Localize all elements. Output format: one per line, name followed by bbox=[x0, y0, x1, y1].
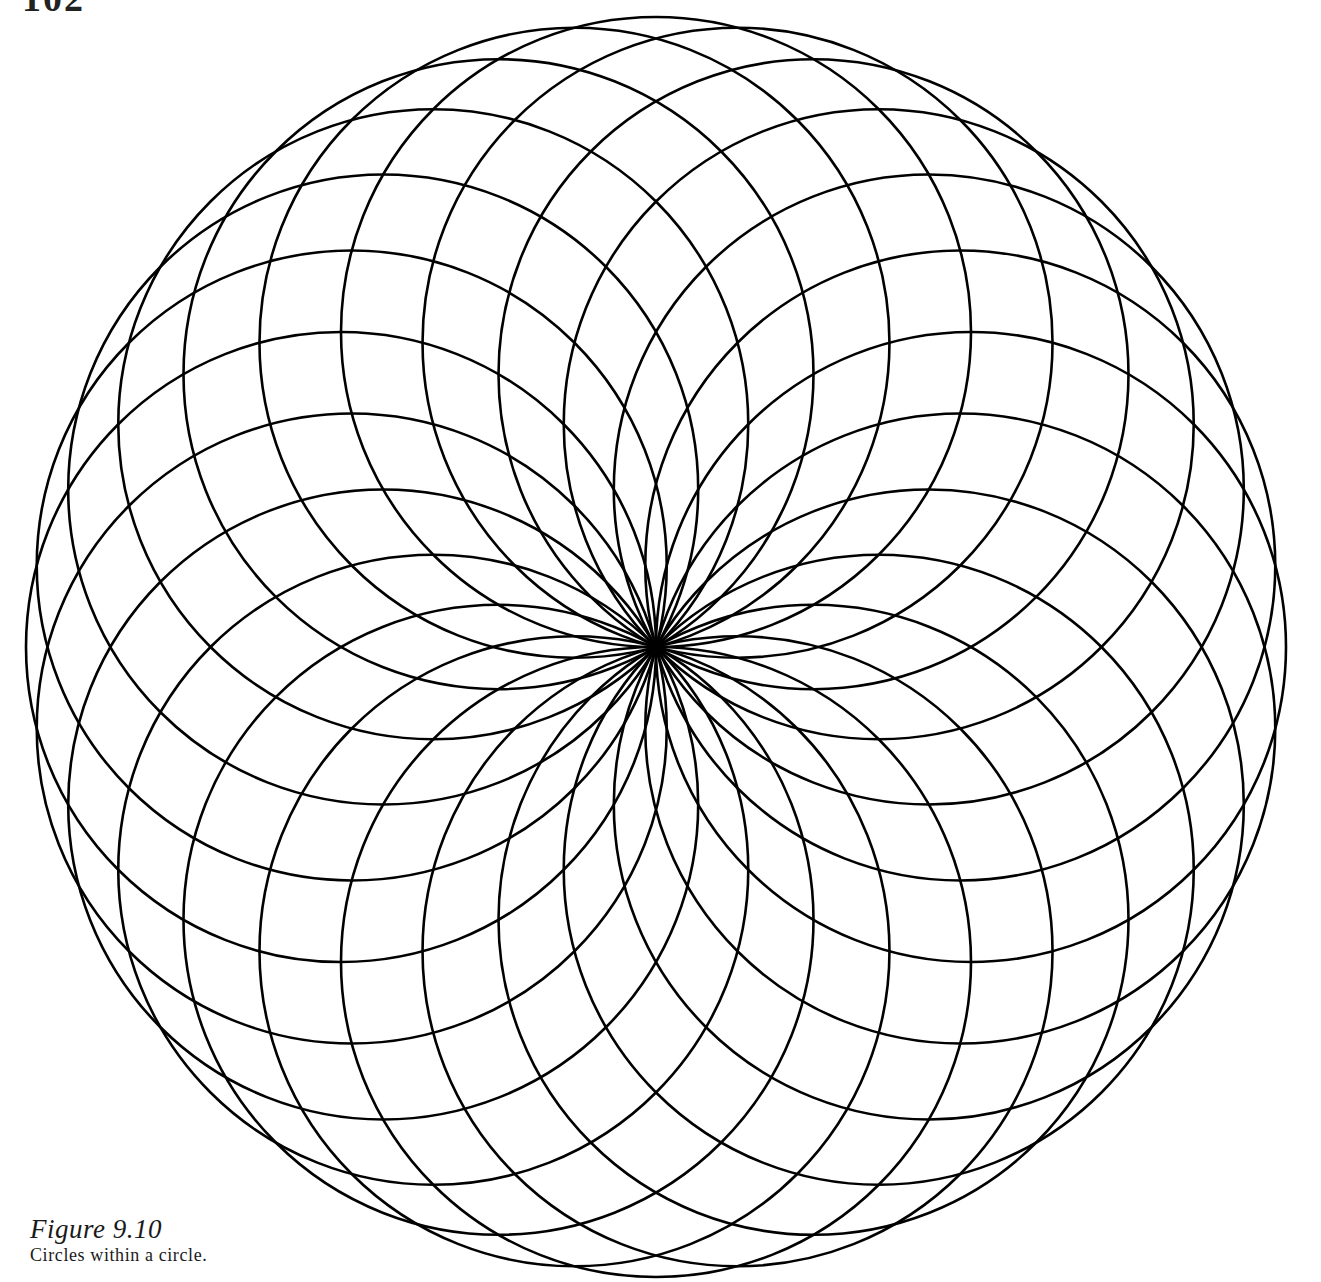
figure-caption-text: Circles within a circle. bbox=[30, 1244, 207, 1266]
circle-rosette bbox=[26, 17, 1286, 1277]
figure-caption: Figure 9.10 Circles within a circle. bbox=[30, 1214, 207, 1266]
circles-figure bbox=[0, 0, 1321, 1282]
figure-label: Figure 9.10 bbox=[30, 1214, 207, 1244]
